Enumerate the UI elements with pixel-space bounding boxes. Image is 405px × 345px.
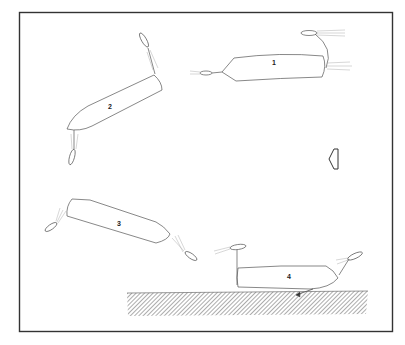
vessel-1-label: 1 bbox=[272, 59, 276, 66]
vessel-2-label: 2 bbox=[108, 103, 112, 110]
vessel-4-thruster-right bbox=[347, 250, 364, 261]
vessel-4-label: 4 bbox=[287, 273, 291, 280]
vessel-1-towline bbox=[315, 34, 328, 68]
vessel-3-thruster-left bbox=[44, 221, 58, 233]
vessel-1: 1 bbox=[190, 30, 352, 81]
vessel-4: 4 bbox=[214, 243, 363, 297]
vessel-2: 2 bbox=[67, 32, 162, 166]
vessel-1-thruster-left bbox=[200, 71, 212, 75]
vessel-3-thruster-right bbox=[184, 250, 198, 262]
diagram-canvas: 1 2 3 bbox=[0, 0, 405, 345]
seabed bbox=[127, 291, 368, 316]
vessel-3: 3 bbox=[44, 199, 198, 262]
seabed-hatch bbox=[127, 291, 368, 316]
vessel-2-thruster-bottom bbox=[68, 149, 77, 166]
left-arrow-outline-icon bbox=[329, 149, 338, 169]
vessel-3-label: 3 bbox=[117, 220, 121, 227]
vessel-2-hull bbox=[67, 75, 162, 130]
vessel-1-thruster-top bbox=[301, 31, 317, 36]
vessel-4-thruster-top bbox=[230, 243, 247, 250]
diagram-frame bbox=[20, 13, 393, 332]
vessel-2-thruster-top bbox=[138, 32, 150, 48]
